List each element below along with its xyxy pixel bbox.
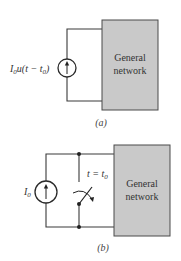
arrow-head-icon — [90, 197, 95, 202]
node-switch — [77, 202, 81, 206]
caption-a: (a) — [95, 117, 107, 129]
current-source-b — [35, 181, 57, 203]
current-source-a — [58, 59, 76, 77]
wire-a-top — [67, 29, 102, 59]
caption-b: (b) — [97, 242, 109, 254]
wire-b-bottom — [46, 203, 114, 227]
switch-blade — [79, 187, 92, 204]
switch — [73, 187, 94, 204]
box-a-label-line1: General — [114, 52, 146, 63]
curved-arrow-icon — [73, 191, 92, 199]
node-top — [77, 152, 81, 156]
figure-a: General network I0u(t − t0) (a) — [9, 20, 158, 129]
node-bottom — [77, 225, 81, 229]
box-b-label-line2: network — [126, 191, 159, 202]
figure-b: General network I0 t = t0 (b) — [23, 145, 170, 254]
source-a-label: I0u(t − t0) — [9, 63, 50, 76]
switch-label: t = t0 — [87, 168, 108, 181]
circuit-diagram: General network I0u(t − t0) (a) General … — [0, 0, 181, 261]
box-b-label-line1: General — [126, 178, 158, 189]
source-b-label: I0 — [23, 186, 31, 199]
wire-a-bottom — [67, 77, 102, 101]
box-a-label-line2: network — [114, 65, 147, 76]
